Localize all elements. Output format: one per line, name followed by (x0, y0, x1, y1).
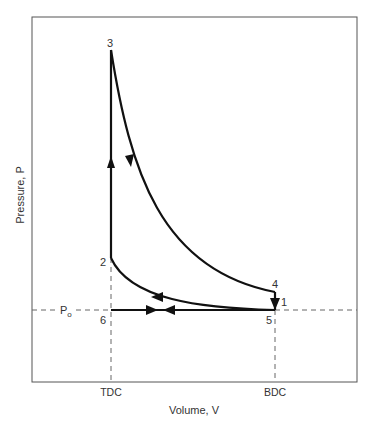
tick-label-tdc: TDC (100, 386, 122, 398)
tick-label-bdc: BDC (264, 386, 287, 398)
point-label-2: 2 (100, 256, 106, 268)
arrow-up-icon (107, 156, 115, 168)
compression-curve-1-2 (111, 258, 275, 310)
arrow-left-icon (163, 305, 175, 315)
point-label-1: 1 (281, 296, 287, 308)
arrow-down-icon (270, 298, 280, 310)
arrow-down-icon (125, 154, 134, 167)
point-label-4: 4 (272, 278, 278, 290)
y-axis-label: Pressure, P (14, 166, 26, 223)
point-label-6: 6 (100, 314, 106, 326)
po-label: Po (60, 304, 72, 319)
x-axis-label: Volume, V (169, 404, 220, 416)
point-label-5: 5 (266, 314, 272, 326)
pv-diagram: 3 2 4 1 5 6 Po TDC BDC Volume, V Pressur… (0, 0, 372, 427)
point-label-3: 3 (107, 37, 113, 49)
expansion-curve-3-4 (111, 50, 275, 292)
plot-frame (32, 17, 357, 382)
arrow-right-icon (146, 305, 158, 315)
